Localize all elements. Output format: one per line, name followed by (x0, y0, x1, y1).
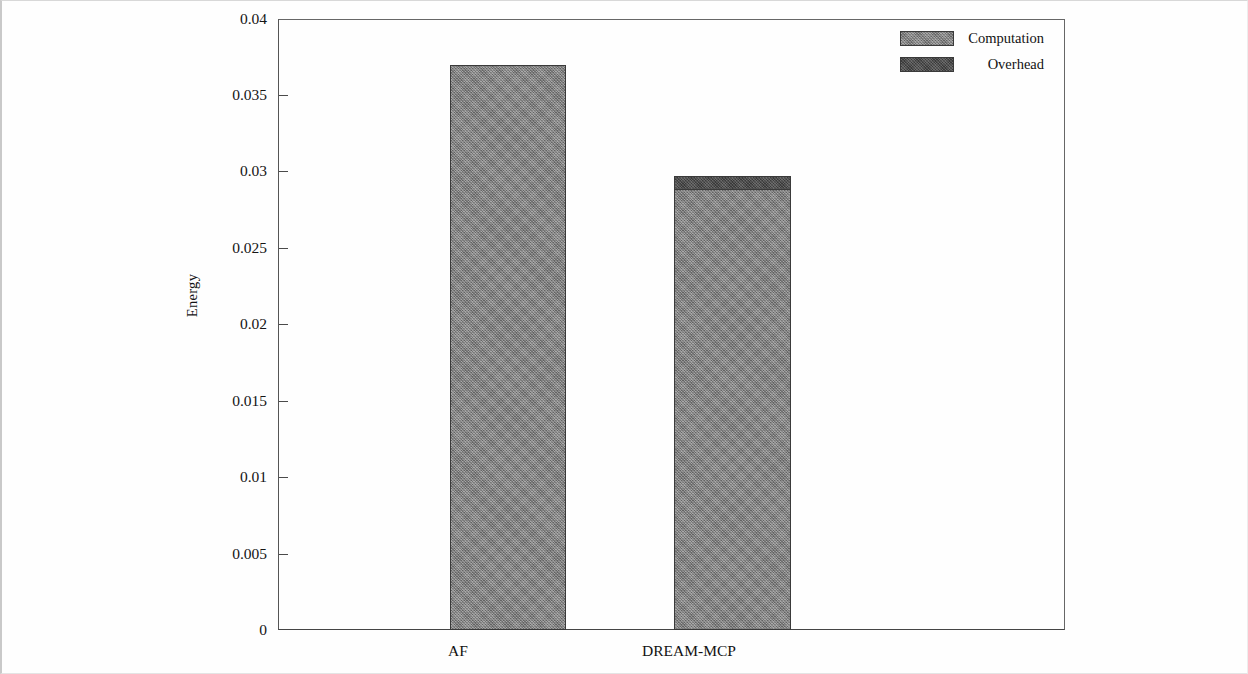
legend: Computation Overhead (900, 27, 1052, 79)
bar-segment-computation[interactable] (450, 65, 566, 630)
y-tick-label: 0.03 (147, 163, 267, 179)
x-tick-label-af: AF (398, 642, 518, 660)
y-tick-label: 0.005 (147, 546, 267, 562)
bar-af[interactable] (450, 65, 566, 630)
x-axis-labels: AF DREAM-MCP (278, 642, 1065, 666)
y-tick-label: 0 (147, 622, 267, 638)
y-tick-label: 0.015 (147, 393, 267, 409)
bar-dream-mcp[interactable] (674, 176, 791, 630)
legend-item-computation[interactable]: Computation (900, 27, 1052, 49)
y-tick-label: 0.01 (147, 469, 267, 485)
legend-label: Overhead (988, 56, 1044, 73)
overhead-swatch (900, 57, 954, 72)
bar-segment-overhead[interactable] (674, 176, 791, 190)
y-tick-label: 0.04 (147, 11, 267, 27)
legend-item-overhead[interactable]: Overhead (900, 53, 1052, 75)
x-tick-label-dream-mcp: DREAM-MCP (619, 642, 759, 660)
y-tick-label: 0.025 (147, 240, 267, 256)
y-tick-label: 0.02 (147, 316, 267, 332)
energy-bar-chart-figure: Energy 0.04 0.035 0.03 0.025 0.02 0.015 … (0, 0, 1248, 674)
y-tick-label: 0.035 (147, 87, 267, 103)
bar-segment-computation[interactable] (674, 189, 791, 630)
computation-swatch (900, 31, 954, 46)
legend-label: Computation (968, 30, 1044, 47)
plot-area (278, 19, 1065, 630)
